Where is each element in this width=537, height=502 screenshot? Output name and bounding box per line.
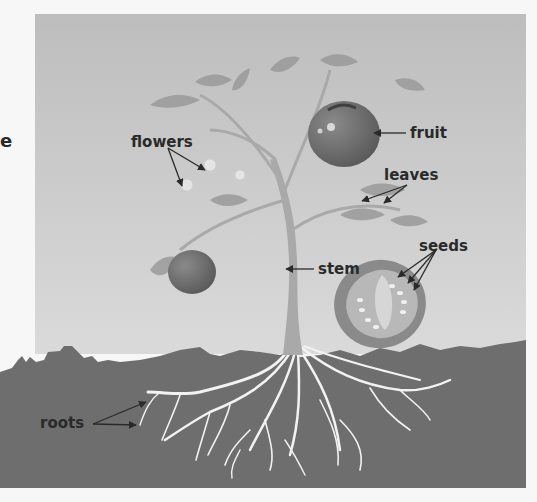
fruit-top-illustration [308,101,380,167]
label-stem: stem [318,260,360,278]
label-fruit: fruit [410,124,447,142]
label-roots: roots [40,414,84,432]
fruit-small-illustration [168,250,216,294]
label-leaves: leaves [384,166,438,184]
cut-off-text: e [0,130,12,151]
tomato-plant-diagram: e flowers fruit leaves seeds stem roots [0,0,537,502]
label-flowers: flowers [131,133,193,151]
label-seeds: seeds [419,237,468,255]
